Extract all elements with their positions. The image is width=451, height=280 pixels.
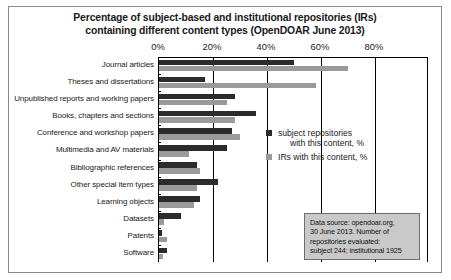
legend-label-subject-line2: with this content, % — [278, 138, 416, 148]
bar-8-series-0 — [159, 196, 200, 202]
bar-11-series-1 — [159, 254, 163, 260]
x-tick-label-40: 40% — [257, 41, 276, 52]
legend-label-subject-line1: subject repositories — [278, 128, 352, 138]
category-label-1: Theses and dissertations — [14, 77, 154, 86]
chart-title: Percentage of subject-based and institut… — [18, 12, 432, 37]
source-note-line4: subject 244; institutional 1925 — [310, 246, 415, 255]
bar-1-series-1 — [159, 83, 316, 89]
category-label-10: Patents — [14, 231, 154, 240]
category-label-0: Journal articles — [14, 60, 154, 69]
bar-11-series-0 — [159, 248, 167, 254]
category-label-6: Bibliographic references — [14, 163, 154, 172]
x-tick-label-20: 20% — [203, 41, 222, 52]
bar-9-series-1 — [159, 219, 164, 225]
bar-3-series-0 — [159, 111, 256, 117]
chart-page: Percentage of subject-based and institut… — [0, 0, 451, 280]
category-label-2: Unpublished reports and working papers — [14, 94, 154, 103]
chart-legend: subject repositories with this content, … — [266, 128, 416, 165]
bar-4-series-0 — [159, 128, 232, 134]
bar-5-series-0 — [159, 145, 227, 151]
y-axis-category-labels: Journal articlesTheses and dissertations… — [14, 57, 154, 262]
bar-3-series-1 — [159, 117, 235, 123]
source-note-line2: 30 June 2013. Number of — [310, 227, 415, 236]
bar-6-series-1 — [159, 168, 200, 174]
legend-label-irs: IRs with this content, % — [278, 152, 367, 162]
bar-10-series-1 — [159, 237, 167, 243]
legend-swatch-light-icon — [266, 154, 272, 160]
bar-5-series-1 — [159, 151, 189, 157]
bar-1-series-0 — [159, 77, 205, 83]
x-tick-label-60: 60% — [311, 41, 330, 52]
category-label-7: Other special item types — [14, 180, 154, 189]
bar-6-series-0 — [159, 162, 197, 168]
bar-10-series-0 — [159, 230, 162, 236]
source-note-line1: Data source: opendoar.org, — [310, 218, 415, 227]
bar-0-series-1 — [159, 66, 348, 72]
bar-2-series-0 — [159, 94, 235, 100]
source-note-line3: repositories evaluated: — [310, 237, 415, 246]
bar-2-series-1 — [159, 100, 227, 106]
category-label-9: Datasets — [14, 214, 154, 223]
x-tick-label-0: 0% — [151, 41, 165, 52]
category-label-5: Multimedia and AV materials — [14, 145, 154, 154]
source-note-box: Data source: opendoar.org, 30 June 2013.… — [304, 213, 420, 260]
category-label-4: Conference and workshop papers — [14, 128, 154, 137]
legend-item-subject-repositories: subject repositories with this content, … — [266, 128, 416, 149]
bar-7-series-0 — [159, 179, 218, 185]
bar-0-series-0 — [159, 60, 294, 66]
chart-title-line2: containing different content types (Open… — [18, 25, 432, 38]
x-tick-label-80: 80% — [365, 41, 384, 52]
category-label-3: Books, chapters and sections — [14, 111, 154, 120]
bar-4-series-1 — [159, 134, 240, 140]
bar-8-series-1 — [159, 202, 194, 208]
legend-swatch-dark-icon — [266, 130, 272, 136]
bar-9-series-0 — [159, 213, 181, 219]
x-axis-tick-labels: 0%20%40%60%80% — [0, 41, 451, 54]
legend-item-irs: IRs with this content, % — [266, 152, 416, 162]
category-label-11: Software — [14, 248, 154, 257]
category-label-8: Learning objects — [14, 197, 154, 206]
bar-7-series-1 — [159, 185, 197, 191]
chart-title-line1: Percentage of subject-based and institut… — [18, 12, 432, 25]
